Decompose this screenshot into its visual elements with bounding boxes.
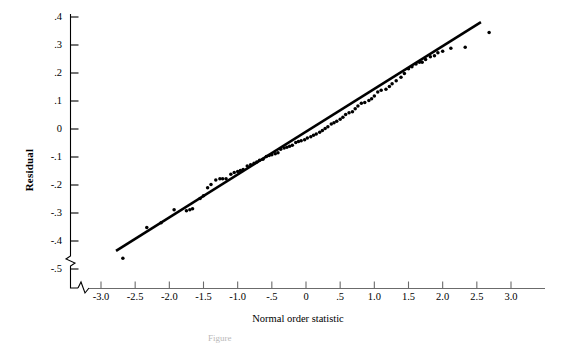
y-tick-marks (71, 17, 79, 269)
scatter-point (224, 177, 228, 181)
y-tick-label: -.1 (51, 152, 62, 163)
x-tick-label: 2.5 (470, 292, 483, 303)
scatter-point (376, 90, 380, 94)
scatter-point (407, 67, 411, 71)
scatter-point (399, 75, 403, 79)
x-tick-label: -.5 (266, 292, 277, 303)
scatter-point (191, 207, 195, 211)
scatter-point (276, 151, 280, 155)
x-tick-marks (101, 282, 511, 289)
x-tick-label: -1.5 (195, 292, 212, 303)
scatter-point (373, 94, 377, 98)
x-tick-label: -2.0 (161, 292, 178, 303)
scatter-point (261, 157, 265, 161)
scatter-point (394, 79, 398, 83)
scatter-point (299, 139, 303, 143)
scatter-point (360, 101, 364, 105)
scatter-point (245, 164, 249, 168)
x-tick-label: -1.0 (229, 292, 246, 303)
scatter-point (341, 115, 345, 119)
x-tick-label: -2.5 (127, 292, 144, 303)
scatter-point (159, 221, 163, 225)
y-tick-label: -.4 (51, 236, 62, 247)
scatter-point (424, 58, 428, 62)
axis-corner-connector (71, 272, 79, 288)
scatter-point (221, 177, 225, 181)
scatter-point (347, 111, 351, 115)
scatter-point (388, 85, 392, 89)
scatter-point (463, 45, 467, 49)
y-tick-label: 0 (57, 124, 62, 135)
scatter-point (414, 62, 418, 66)
scatter-point (410, 65, 414, 69)
fitted-reference-line (116, 22, 481, 251)
scatter-point (379, 89, 383, 93)
scatter-point (249, 163, 253, 167)
x-tick-label: 1.0 (368, 292, 381, 303)
scatter-point (487, 31, 491, 35)
scatter-point (315, 132, 319, 136)
scatter-point (270, 153, 274, 157)
scatter-point (433, 54, 437, 58)
x-tick-label: 0 (303, 292, 308, 303)
x-tick-label: .5 (336, 292, 344, 303)
y-tick-label: .4 (54, 12, 62, 23)
y-tick-label: -.5 (51, 264, 62, 275)
x-axis-break-icon (78, 282, 89, 293)
x-tick-label: 1.5 (402, 292, 415, 303)
scatter-point (202, 194, 206, 198)
x-axis-title: Normal order statistic (252, 313, 344, 324)
scatter-point (429, 55, 433, 59)
scatter-point (370, 97, 374, 101)
scatter-point (384, 87, 388, 91)
scatter-point (206, 186, 210, 190)
scatter-point (390, 82, 394, 86)
scatter-points-group (121, 31, 491, 260)
scatter-point (241, 168, 245, 172)
scatter-point (209, 183, 213, 187)
scatter-point (121, 257, 125, 261)
scatter-point (306, 136, 310, 140)
scatter-point (185, 209, 189, 213)
scatter-point (214, 178, 218, 182)
figure-caption: Figure (208, 333, 232, 343)
x-tick-label: 3.0 (504, 292, 517, 303)
scatter-point (326, 125, 330, 129)
scatter-point (258, 159, 262, 163)
y-tick-label: -.3 (51, 208, 62, 219)
scatter-point (436, 51, 440, 55)
scatter-point (344, 113, 348, 117)
scatter-point (233, 171, 237, 175)
scatter-point (356, 104, 360, 108)
x-tick-label: 2.0 (436, 292, 449, 303)
axis-lines (66, 14, 545, 293)
scatter-point (441, 49, 445, 53)
scatter-point (229, 173, 233, 177)
scatter-point (291, 143, 295, 147)
scatter-point (353, 107, 357, 111)
y-tick-label: .1 (54, 96, 62, 107)
scatter-point (198, 197, 202, 201)
y-tick-label: -.2 (51, 180, 62, 191)
scatter-point (363, 101, 367, 105)
scatter-point (279, 147, 283, 151)
scatter-point (351, 110, 355, 114)
scatter-point (335, 119, 339, 123)
scatter-point (403, 72, 407, 76)
scatter-point (145, 226, 149, 230)
x-tick-label: -3.0 (93, 292, 110, 303)
scatter-point (172, 208, 176, 212)
scatter-point (420, 61, 424, 65)
scatter-point (449, 47, 453, 51)
y-axis-title: Residual (23, 148, 35, 191)
y-tick-label: .2 (54, 68, 62, 79)
y-tick-label: .3 (54, 40, 62, 51)
